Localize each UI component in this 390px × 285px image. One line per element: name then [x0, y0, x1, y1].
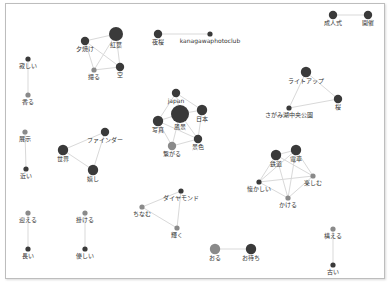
node-label: 懐かしい: [247, 185, 271, 193]
node-kaoru[interactable]: 香る: [22, 92, 34, 105]
node-circle[interactable]: [291, 145, 301, 155]
node-label: 紅葉: [110, 41, 122, 49]
node-circle[interactable]: [168, 142, 176, 150]
node-label: 夜桜: [152, 38, 164, 46]
node-label: 電車: [290, 155, 302, 163]
node-nagai[interactable]: 長い: [22, 246, 34, 259]
node-tanoshimu[interactable]: 楽しむ: [304, 173, 322, 186]
node-circle[interactable]: [81, 37, 89, 45]
node-yasashii[interactable]: 優しい: [76, 246, 94, 259]
node-label: 優しい: [76, 252, 94, 260]
node-circle[interactable]: [334, 95, 342, 103]
node-lightup[interactable]: ライトアップ: [288, 67, 324, 84]
node-circle[interactable]: [210, 244, 220, 254]
node-label: お待ち: [242, 254, 260, 262]
node-label: 風景: [174, 123, 186, 131]
node-label: 景色: [192, 143, 204, 151]
node-label: かける: [279, 201, 297, 209]
node-fukei[interactable]: 風景: [171, 105, 189, 131]
node-circle[interactable]: [197, 105, 207, 115]
node-label: 長い: [22, 252, 34, 260]
node-tetsudo[interactable]: 鉄道: [270, 150, 282, 168]
node-finder[interactable]: ファインダー: [87, 128, 123, 144]
node-mukaeru[interactable]: 迎える: [19, 210, 37, 223]
node-label: 展示: [19, 135, 31, 143]
node-label: 空: [117, 71, 123, 78]
nodes-layer: 夕焼け紅葉撮る空夜桜kanagawaphotoclub成人式開催寂しい香るライト…: [19, 11, 374, 276]
node-label: 鉄道: [270, 160, 282, 168]
node-kagayaku[interactable]: 輝く: [171, 225, 183, 238]
node-label: 迎える: [19, 216, 37, 224]
node-shashin[interactable]: 写真: [152, 116, 164, 134]
node-ureshii[interactable]: 嬉し: [87, 165, 99, 183]
edge-lightup-sakura: [306, 72, 338, 99]
node-kaisai[interactable]: 開催: [362, 11, 374, 27]
node-sagamiko[interactable]: さがみ湖中央公園: [265, 105, 313, 118]
node-sekai[interactable]: 世界: [57, 145, 69, 163]
node-mukaeru2[interactable]: 構える: [324, 226, 342, 239]
node-japan[interactable]: japan: [167, 89, 185, 105]
node-label: 世界: [57, 155, 69, 163]
network-graph[interactable]: 夕焼け紅葉撮る空夜桜kanagawaphotoclub成人式開催寂しい香るライト…: [0, 0, 390, 285]
node-daiya[interactable]: ダイヤモンド: [163, 188, 199, 201]
node-label: 楽しむ: [304, 179, 322, 187]
node-oru[interactable]: おる: [209, 244, 221, 261]
node-circle[interactable]: [171, 105, 189, 123]
node-label: 開催: [362, 19, 374, 27]
node-label: 嬉し: [87, 175, 99, 183]
node-sabishii[interactable]: 寂しい: [19, 56, 37, 69]
edge-sakura-sagamiko: [289, 99, 338, 108]
node-label: 近い: [20, 172, 32, 180]
node-omachi[interactable]: お待ち: [242, 244, 260, 262]
node-sora[interactable]: 空: [116, 63, 124, 78]
node-label: 輝く: [171, 231, 183, 239]
node-chikai[interactable]: 近い: [20, 166, 32, 179]
node-label: 掛ける: [76, 216, 94, 224]
node-label: 写真: [152, 126, 164, 134]
node-circle[interactable]: [153, 116, 163, 126]
node-label: 寂しい: [19, 62, 37, 70]
node-circle[interactable]: [301, 67, 311, 77]
node-circle[interactable]: [58, 145, 68, 155]
node-circle[interactable]: [109, 27, 123, 41]
node-label: 古い: [327, 268, 339, 276]
node-label: kanagawaphotoclub: [180, 37, 241, 45]
node-circle[interactable]: [116, 63, 124, 71]
node-circle[interactable]: [172, 89, 180, 97]
node-sakura[interactable]: 桜: [334, 95, 342, 111]
node-label: さがみ湖中央公園: [265, 111, 313, 119]
node-label: おる: [209, 254, 221, 261]
node-kakeru2[interactable]: 掛ける: [76, 210, 94, 223]
node-label: 香る: [22, 98, 34, 106]
node-label: 成人式: [324, 19, 342, 27]
node-kakeru[interactable]: かける: [279, 195, 297, 208]
node-circle[interactable]: [88, 165, 98, 175]
node-label: 桜: [335, 103, 341, 111]
node-circle[interactable]: [329, 11, 337, 19]
node-label: ちなむ: [133, 210, 151, 218]
node-label: 夕焼け: [76, 45, 94, 53]
node-label: 日本: [196, 115, 208, 123]
node-chinamu[interactable]: ちなむ: [133, 204, 151, 217]
node-label: 撮る: [88, 73, 100, 80]
node-label: ファインダー: [87, 136, 123, 144]
node-label: ダイヤモンド: [163, 194, 199, 202]
node-circle[interactable]: [364, 11, 372, 19]
node-label: japan: [167, 97, 185, 105]
node-label: ライトアップ: [288, 77, 324, 84]
node-tenji[interactable]: 展示: [19, 129, 31, 142]
node-circle[interactable]: [246, 244, 256, 254]
node-momiji[interactable]: 紅葉: [109, 27, 123, 49]
node-circle[interactable]: [101, 128, 109, 136]
node-yakei[interactable]: 夜桜: [152, 30, 164, 46]
node-furui[interactable]: 古い: [327, 262, 339, 275]
node-label: 構える: [324, 232, 342, 240]
node-circle[interactable]: [194, 135, 202, 143]
node-circle[interactable]: [154, 30, 162, 38]
node-kanagawa[interactable]: kanagawaphotoclub: [180, 31, 241, 44]
node-label: 繋がる: [163, 150, 181, 158]
node-nihon[interactable]: 日本: [196, 105, 208, 123]
node-seijinshiki[interactable]: 成人式: [324, 11, 342, 27]
node-circle[interactable]: [271, 150, 281, 160]
